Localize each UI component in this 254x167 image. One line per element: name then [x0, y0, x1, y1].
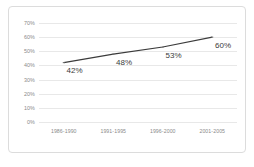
data-point-label: 48% [116, 58, 132, 67]
x-axis-tick-label: 1991-1995 [100, 128, 126, 134]
y-axis-tick-label: 70% [24, 20, 35, 26]
plot-area: 70% 60% 50% 40% 30% 20% 10% 0% 1986-1990… [39, 23, 237, 122]
data-point-marker [211, 37, 213, 38]
data-point-label: 60% [215, 41, 231, 50]
chart-container: 70% 60% 50% 40% 30% 20% 10% 0% 1986-1990… [8, 6, 246, 153]
data-point-label: 42% [67, 66, 83, 75]
data-point-marker [112, 54, 114, 55]
data-point-marker [63, 62, 65, 63]
y-axis-tick-label: 30% [24, 77, 35, 83]
y-axis-tick-label: 60% [24, 34, 35, 40]
y-axis-tick-label: 40% [24, 62, 35, 68]
y-axis-tick-label: 10% [24, 105, 35, 111]
series-polyline [64, 37, 213, 62]
y-axis-tick-label: 20% [24, 91, 35, 97]
gridline [39, 122, 237, 123]
data-point-label: 53% [166, 51, 182, 60]
x-axis-tick-label: 1986-1990 [51, 128, 77, 134]
caption-strip [0, 157, 254, 167]
x-axis-tick-label: 2001-2005 [199, 128, 225, 134]
y-axis-tick-label: 0% [27, 119, 35, 125]
x-axis-tick-label: 1996-2000 [150, 128, 176, 134]
data-point-marker [162, 47, 164, 48]
y-axis-tick-label: 50% [24, 48, 35, 54]
